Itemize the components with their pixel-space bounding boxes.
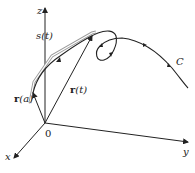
arc-length-label: s(t) (36, 30, 53, 41)
x-axis (14, 123, 45, 158)
y-axis-label: y (182, 146, 189, 157)
curve-label: C (176, 56, 184, 67)
arc-length-diagram: z y x 0 s(t) C r(a) r(t) (0, 0, 195, 173)
vector-r-t-label: r(t) (70, 84, 87, 95)
vector-r-a-label: r(a) (14, 93, 33, 104)
origin-label: 0 (45, 128, 51, 139)
y-axis (45, 123, 188, 142)
z-axis-label: z (36, 5, 43, 16)
vector-r-t (45, 36, 92, 123)
curve-c (33, 31, 188, 93)
x-axis-label: x (5, 151, 11, 162)
vector-r-a (33, 93, 45, 123)
